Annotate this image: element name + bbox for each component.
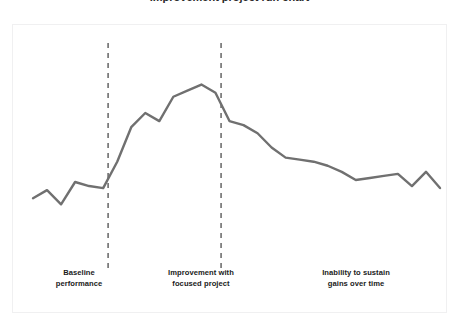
phase-label-baseline: Baseline performance — [27, 267, 131, 289]
phase-label-improvement: Improvement with focused project — [141, 267, 261, 289]
chart-panel: Baseline performance Improvement with fo… — [12, 24, 447, 313]
clipped-title: Improvement project run chart — [0, 0, 459, 16]
clipped-title-text: Improvement project run chart — [0, 0, 459, 3]
phase-label-regression: Inability to sustain gains over time — [281, 267, 431, 289]
performance-line — [33, 85, 440, 205]
figure-root: Improvement project run chart Baseline p… — [0, 0, 459, 323]
